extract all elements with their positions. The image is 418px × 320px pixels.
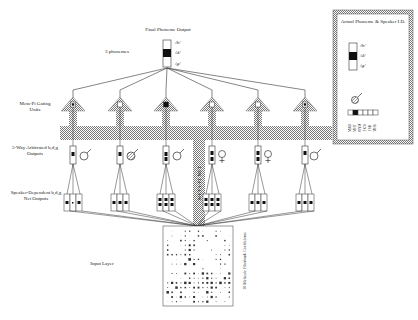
output-connections	[73, 68, 305, 90]
coefficients-label: 16 Melscale Filterbank Coefficients	[242, 231, 248, 291]
speaker-dependent-label: Speaker-Dependent b,d,g Net Outputs	[8, 190, 64, 202]
legend-speaker-boxes	[348, 110, 378, 115]
phonemes-label: 3 phonemes	[105, 49, 145, 55]
speaker-dependent-outputs	[64, 194, 314, 211]
legend-speaker-labels: MAU MHT MNM FKN FSU MHS	[348, 118, 380, 138]
gating-units	[61, 97, 317, 111]
legend-phoneme-g: /g/	[360, 63, 365, 68]
gating-top-stubs	[73, 90, 305, 98]
legend-phoneme-d: /d/	[360, 53, 365, 58]
input-layer-label: Input Layer	[82, 261, 122, 267]
output-phoneme-b: /b/	[175, 40, 180, 45]
meta-pi-net-label: META-PI NET	[197, 153, 203, 213]
meta-pi-bus	[60, 126, 332, 140]
final-output-title: Final Phoneme Output	[138, 27, 198, 33]
gating-unit-boxes	[71, 102, 308, 107]
arbitrated-outputs-label: 5-Way Arbitrated b,d,g Outputs	[10, 145, 60, 157]
output-phoneme-g: /g/	[175, 61, 180, 66]
gating-units-label: Meta-Pi Gating Units	[14, 101, 56, 113]
input-layer-matrix	[163, 226, 233, 306]
legend-phoneme-b: /b/	[360, 43, 365, 48]
diagram-canvas	[0, 0, 418, 320]
output-phoneme-d: /d/	[175, 50, 180, 55]
arbitrated-outputs	[70, 146, 308, 164]
legend-title: Actual Phoneme & Speaker I.D.	[339, 19, 407, 25]
speaker-label: MHS	[372, 119, 378, 137]
input-connections	[70, 211, 314, 226]
